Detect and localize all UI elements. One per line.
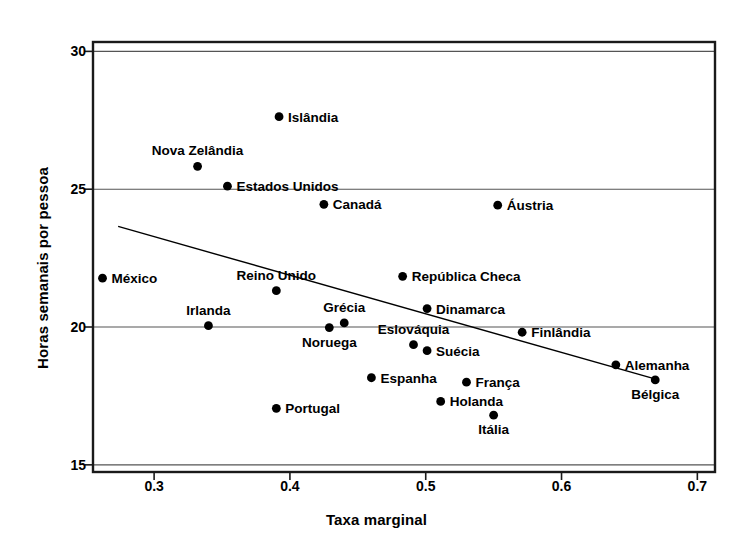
point-label-alemanha: Alemanha xyxy=(625,359,690,373)
x-tick-label-0.6: 0.6 xyxy=(552,478,571,494)
data-point-austria xyxy=(493,201,502,210)
data-point-dinamarca xyxy=(423,304,432,313)
point-label-franca: França xyxy=(475,376,519,390)
axis-ticks xyxy=(85,51,697,480)
data-point-republica-checa xyxy=(398,272,407,281)
data-point-eslovaquia xyxy=(409,340,418,349)
point-label-austria: Áustria xyxy=(507,199,554,213)
data-point-noruega xyxy=(325,323,334,332)
data-point-canada xyxy=(319,200,328,209)
y-tick-label-30: 30 xyxy=(52,43,86,59)
data-point-grecia xyxy=(340,318,349,327)
point-label-nova-zelandia: Nova Zelândia xyxy=(152,144,244,158)
data-point-irlanda xyxy=(204,321,213,330)
data-point-suecia xyxy=(423,346,432,355)
point-label-grecia: Grécia xyxy=(323,300,365,314)
y-tick-label-25: 25 xyxy=(52,181,86,197)
x-tick-label-0.7: 0.7 xyxy=(688,478,707,494)
data-point-islandia xyxy=(275,112,284,121)
point-label-suecia: Suécia xyxy=(436,345,480,359)
data-point-italia xyxy=(489,411,498,420)
axes-frame xyxy=(93,42,715,472)
data-point-portugal xyxy=(272,404,281,413)
point-label-italia: Itália xyxy=(478,423,509,437)
point-label-noruega: Noruega xyxy=(302,336,357,350)
point-label-islandia: Islândia xyxy=(288,111,338,125)
data-point-reino-unido xyxy=(272,286,281,295)
x-tick-label-0.4: 0.4 xyxy=(280,478,299,494)
point-label-holanda: Holanda xyxy=(450,396,503,410)
point-label-belgica: Bélgica xyxy=(631,388,679,402)
point-label-canada: Canadá xyxy=(333,199,382,213)
data-point-holanda xyxy=(436,397,445,406)
data-point-belgica xyxy=(651,376,660,385)
data-point-mexico xyxy=(98,274,107,283)
point-label-dinamarca: Dinamarca xyxy=(436,303,505,317)
point-label-republica-checa: República Checa xyxy=(412,271,521,285)
data-point-espanha xyxy=(367,373,376,382)
plot-frame xyxy=(93,42,715,472)
scatter-chart-figure: 0.30.40.50.60.7 15202530 IslândiaNova Ze… xyxy=(0,0,753,557)
point-label-eslovaquia: Eslováquia xyxy=(378,322,449,336)
gridlines xyxy=(93,51,715,464)
point-label-irlanda: Irlanda xyxy=(186,303,230,317)
point-label-espanha: Espanha xyxy=(380,372,436,386)
point-label-finlandia: Finlândia xyxy=(531,327,590,341)
data-point-franca xyxy=(462,378,471,387)
data-points xyxy=(98,112,660,419)
data-point-estados-unidos xyxy=(223,182,232,191)
x-tick-label-0.3: 0.3 xyxy=(144,478,163,494)
x-tick-label-0.5: 0.5 xyxy=(416,478,435,494)
point-label-mexico: México xyxy=(112,272,158,286)
y-tick-label-15: 15 xyxy=(52,457,86,473)
point-label-reino-unido: Reino Unido xyxy=(237,268,317,282)
data-point-nova-zelandia xyxy=(193,162,202,171)
point-label-estados-unidos: Estados Unidos xyxy=(236,180,338,194)
y-axis-title: Horas semanais por pessoa xyxy=(34,118,51,418)
data-point-alemanha xyxy=(611,360,620,369)
data-point-finlandia xyxy=(518,328,527,337)
x-axis-title: Taxa marginal xyxy=(0,511,753,528)
point-label-portugal: Portugal xyxy=(285,403,340,417)
y-tick-label-20: 20 xyxy=(52,319,86,335)
